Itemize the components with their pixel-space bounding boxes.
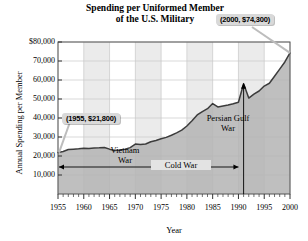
y-axis-tick-label: 10,000: [33, 170, 55, 179]
vietnam-war-line2: War: [95, 155, 155, 165]
y-axis-tick-label: 40,000: [33, 113, 55, 122]
chart-figure: Spending per Uniformed Member of the U.S…: [0, 0, 308, 241]
annotation-callout-1955: (1955, $21,800): [62, 113, 120, 124]
annotation-callout-2000: (2000, $74,300): [216, 14, 274, 25]
annotation-cold-war: Cold War: [151, 160, 211, 170]
persian-gulf-war-line1: Persian Gulf: [186, 113, 270, 123]
annotation-persian-gulf-war: Persian Gulf War: [186, 113, 270, 133]
y-axis-tick-label: 60,000: [33, 75, 55, 84]
y-axis-tick-label: 50,000: [33, 94, 55, 103]
persian-gulf-war-line2: War: [186, 123, 270, 133]
y-axis-tick-label: $80,000: [29, 37, 55, 46]
vietnam-war-line1: Vietnam: [95, 145, 155, 155]
x-axis-tick-label: 2000: [273, 203, 307, 212]
y-axis-tick-label: 20,000: [33, 151, 55, 160]
x-axis-title: Year: [58, 225, 290, 235]
annotation-vietnam-war: Vietnam War: [95, 145, 155, 165]
y-axis-tick-label: 70,000: [33, 56, 55, 65]
y-axis-tick-label: 30,000: [33, 132, 55, 141]
x-axis-tick-labels: 1955196019651970197519801985199019952000: [0, 203, 308, 217]
chart-title-line1: Spending per Uniformed Member: [40, 3, 270, 14]
